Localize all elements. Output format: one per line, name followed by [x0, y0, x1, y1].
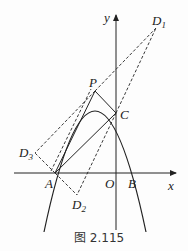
origin-label: O [105, 176, 115, 191]
point-P-label: P [88, 75, 97, 90]
point-A-label: A [44, 176, 53, 191]
point-D3-label: D3 [18, 145, 33, 162]
x-axis-label: x [167, 178, 174, 193]
segment-AD3 [35, 153, 55, 173]
parabola [44, 111, 146, 232]
point-B-label: B [128, 176, 136, 191]
segment-AD1 [51, 89, 91, 171]
point-C-label: C [120, 107, 129, 122]
point-D2-label: D2 [71, 197, 86, 214]
segment-CD1 [116, 28, 156, 113]
point-D1-label: D1 [151, 13, 166, 30]
segment-AD2 [55, 173, 77, 195]
segment-PD3 [35, 91, 95, 153]
segment-PC [95, 91, 116, 113]
figure-caption: 图 2.115 [74, 231, 124, 245]
y-axis-label: y [102, 10, 110, 25]
figure: y x O A B C P D1 D2 D3 图 2.115 [0, 0, 188, 251]
geometry-diagram: y x O A B C P D1 D2 D3 图 2.115 [0, 0, 188, 251]
segment-AC [55, 113, 116, 173]
segment-PD1 [95, 28, 156, 91]
segment-AP [55, 91, 95, 173]
